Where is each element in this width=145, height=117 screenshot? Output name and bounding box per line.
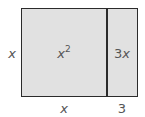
x-squared-base: x bbox=[57, 46, 65, 61]
region-divider bbox=[106, 8, 108, 97]
region-x-squared-label: x2 bbox=[57, 45, 70, 60]
x-squared-exponent: 2 bbox=[65, 44, 71, 54]
region-3x-label: 3x bbox=[114, 47, 130, 60]
height-label: x bbox=[8, 47, 16, 60]
width-label-3: 3 bbox=[118, 102, 126, 115]
width-label-x: x bbox=[60, 102, 68, 115]
3x-variable: x bbox=[122, 46, 130, 61]
